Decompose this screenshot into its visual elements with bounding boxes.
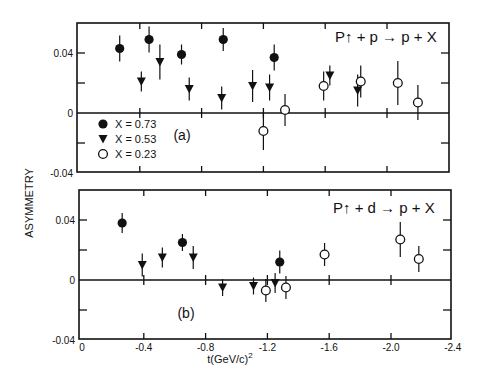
- triangle-down-marker: [99, 135, 108, 144]
- y-tick-label: -0.04: [50, 168, 73, 179]
- open-circle-marker: [99, 150, 108, 159]
- reaction-label: P↑ + p → p + X: [335, 28, 437, 45]
- open-circle-marker: [356, 77, 365, 86]
- series-filled-triangle-down: [138, 246, 280, 296]
- filled-circle-marker: [178, 238, 187, 247]
- y-tick-label: 0.04: [56, 215, 76, 226]
- legend-label: X = 0.73: [115, 118, 156, 130]
- triangle-down-marker: [189, 254, 198, 263]
- open-circle-marker: [414, 98, 423, 107]
- x-tick-label: -1.2: [259, 342, 277, 353]
- open-circle-marker: [261, 286, 270, 295]
- triangle-down-marker: [155, 58, 164, 67]
- open-circle-marker: [396, 235, 405, 244]
- triangle-down-marker: [137, 78, 146, 87]
- legend-label: X = 0.53: [115, 133, 156, 145]
- y-tick-label: 0.04: [54, 48, 74, 59]
- triangle-down-marker: [138, 261, 147, 270]
- panel-b: 0-0.4-0.8-1.2-1.6-2.0-2.4-0.0400.04P↑ + …: [52, 190, 462, 353]
- filled-circle-marker: [219, 35, 228, 44]
- triangle-down-marker: [265, 84, 274, 93]
- triangle-down-marker: [325, 72, 334, 81]
- asymmetry-figure: -0.0400.04P↑ + p → p + X(a)X = 0.73X = 0…: [0, 0, 479, 379]
- open-circle-marker: [282, 283, 291, 292]
- open-circle-marker: [259, 127, 268, 136]
- y-tick-label: -0.04: [52, 335, 75, 346]
- triangle-down-marker: [185, 85, 194, 94]
- series-open-circle: [259, 61, 422, 150]
- open-circle-marker: [414, 255, 423, 264]
- y-axis-title: ASYMMETRY: [23, 168, 35, 238]
- open-circle-marker: [281, 106, 290, 115]
- filled-circle-marker: [98, 119, 107, 128]
- legend-label: X = 0.23: [115, 148, 156, 160]
- filled-circle-marker: [118, 218, 127, 227]
- triangle-down-marker: [217, 94, 226, 103]
- filled-circle-marker: [144, 35, 153, 44]
- x-tick-label: 0: [79, 342, 85, 353]
- open-circle-marker: [320, 250, 329, 259]
- triangle-down-marker: [249, 282, 258, 291]
- panel-a: -0.0400.04P↑ + p → p + X(a)X = 0.73X = 0…: [50, 23, 449, 179]
- x-tick-label: -2.0: [382, 342, 400, 353]
- triangle-down-marker: [248, 82, 257, 91]
- series-filled-circle: [115, 27, 279, 71]
- triangle-down-marker: [218, 284, 227, 293]
- legend: X = 0.73X = 0.53X = 0.23: [98, 118, 156, 160]
- panel-label: (a): [173, 127, 190, 143]
- series-open-circle: [261, 222, 423, 302]
- filled-circle-marker: [270, 53, 279, 62]
- x-tick-label: -0.8: [197, 342, 215, 353]
- y-tick-label: 0: [67, 108, 73, 119]
- filled-circle-marker: [115, 44, 124, 53]
- series-filled-triangle-down: [137, 45, 362, 110]
- y-tick-label: 0: [69, 275, 75, 286]
- triangle-down-marker: [271, 279, 280, 288]
- x-tick-label: -1.6: [321, 342, 339, 353]
- filled-circle-marker: [177, 50, 186, 59]
- x-axis-title: t(GeV/c)2: [207, 351, 253, 365]
- open-circle-marker: [319, 82, 328, 91]
- x-tick-label: -0.4: [135, 342, 153, 353]
- triangle-down-marker: [158, 254, 167, 263]
- reaction-label: P↑ + d → p + X: [333, 199, 435, 216]
- filled-circle-marker: [275, 257, 284, 266]
- open-circle-marker: [393, 79, 402, 88]
- x-tick-label: -2.4: [444, 342, 462, 353]
- panel-label: (b): [177, 305, 194, 321]
